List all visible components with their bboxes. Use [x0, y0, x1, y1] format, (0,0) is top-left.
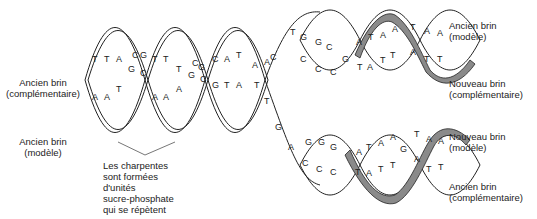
- svg-text:G: G: [330, 142, 337, 152]
- svg-text:G: G: [300, 32, 307, 42]
- svg-text:T: T: [116, 84, 122, 94]
- svg-text:A: A: [437, 28, 443, 38]
- svg-text:C: C: [300, 54, 307, 64]
- fork-lower-arm: [265, 80, 320, 185]
- svg-text:T: T: [224, 80, 230, 90]
- svg-text:T: T: [236, 50, 242, 60]
- label-left-top: Ancien brin (complémentaire): [0, 77, 86, 99]
- svg-text:T: T: [254, 80, 260, 90]
- fork-upper-arm: [265, 12, 320, 80]
- svg-text:T: T: [92, 54, 98, 64]
- svg-text:A: A: [104, 92, 110, 102]
- svg-text:T: T: [410, 22, 416, 32]
- label-right-top-new: Nouveau brin (complémentaire): [449, 78, 523, 100]
- svg-text:G: G: [212, 80, 219, 90]
- svg-text:T: T: [366, 142, 372, 152]
- svg-text:A: A: [380, 30, 386, 40]
- svg-text:G: G: [140, 50, 147, 60]
- svg-text:A: A: [176, 84, 182, 94]
- svg-text:T: T: [104, 54, 110, 64]
- svg-text:T: T: [152, 54, 158, 64]
- label-left-bottom: Ancien brin (modèle): [0, 136, 86, 158]
- svg-text:G: G: [318, 137, 325, 147]
- svg-text:G: G: [342, 54, 349, 64]
- svg-text:C: C: [200, 74, 207, 84]
- svg-text:T: T: [437, 54, 443, 64]
- svg-text:T: T: [264, 96, 270, 106]
- svg-text:T: T: [424, 54, 430, 64]
- svg-text:T: T: [355, 167, 361, 177]
- svg-text:T: T: [378, 164, 384, 174]
- svg-text:G: G: [305, 137, 312, 147]
- svg-text:T: T: [368, 32, 374, 42]
- label-right-bottom-new: Nouveau brin (modèle): [449, 131, 506, 153]
- svg-text:G: G: [315, 37, 322, 47]
- svg-text:T: T: [357, 62, 363, 72]
- svg-text:C: C: [132, 50, 139, 60]
- svg-text:A: A: [438, 136, 444, 146]
- svg-text:G: G: [275, 122, 282, 132]
- svg-text:A: A: [288, 142, 294, 152]
- svg-text:A: A: [392, 24, 398, 34]
- svg-text:C: C: [315, 64, 322, 74]
- label-right-top-old: Ancien brin (modèle): [449, 20, 497, 42]
- svg-text:A: A: [356, 147, 362, 157]
- svg-text:A: A: [424, 26, 430, 36]
- svg-text:A: A: [426, 134, 432, 144]
- svg-text:A: A: [366, 168, 372, 178]
- svg-text:T: T: [380, 55, 386, 65]
- svg-text:T: T: [290, 27, 296, 37]
- label-right-bottom-old: Ancien brin (complémentaire): [449, 181, 523, 203]
- svg-text:A: A: [236, 80, 242, 90]
- svg-text:T: T: [414, 129, 420, 139]
- svg-text:A: A: [378, 138, 384, 148]
- svg-text:A: A: [356, 37, 362, 47]
- svg-text:T: T: [390, 50, 396, 60]
- svg-text:G: G: [400, 144, 407, 154]
- svg-text:A: A: [410, 47, 416, 57]
- svg-text:C: C: [316, 164, 323, 174]
- svg-text:C: C: [302, 158, 309, 168]
- svg-text:A: A: [92, 92, 98, 102]
- svg-text:T: T: [426, 164, 432, 174]
- svg-text:A: A: [152, 92, 158, 102]
- svg-text:C: C: [326, 42, 333, 52]
- svg-text:C: C: [330, 67, 337, 77]
- svg-text:G: G: [188, 70, 195, 80]
- svg-text:A: A: [224, 54, 230, 64]
- svg-text:G: G: [198, 62, 205, 72]
- svg-text:C: C: [140, 68, 147, 78]
- svg-text:A: A: [390, 132, 396, 142]
- svg-text:T: T: [390, 160, 396, 170]
- svg-text:A: A: [163, 92, 169, 102]
- svg-text:T: T: [438, 162, 444, 172]
- svg-text:A: A: [116, 54, 122, 64]
- svg-text:C: C: [330, 167, 337, 177]
- svg-text:G: G: [128, 64, 135, 74]
- svg-text:C: C: [212, 54, 219, 64]
- svg-text:C: C: [270, 52, 277, 62]
- svg-text:T: T: [176, 64, 182, 74]
- svg-text:A: A: [252, 60, 258, 70]
- svg-text:T: T: [163, 54, 169, 64]
- svg-text:A: A: [367, 62, 373, 72]
- label-backbone-note: Les charpentes sont formées d'unités suc…: [103, 160, 174, 215]
- svg-text:A: A: [414, 154, 420, 164]
